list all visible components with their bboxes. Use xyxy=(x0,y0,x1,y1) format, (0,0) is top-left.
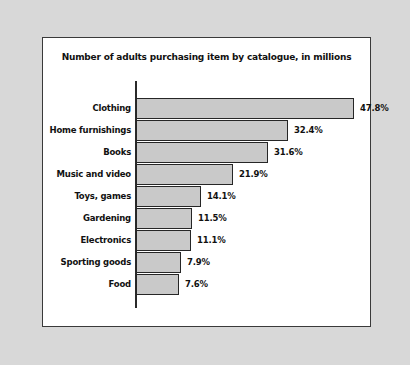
bar-category-label: Clothing xyxy=(43,103,131,113)
bar-category-label: Gardening xyxy=(43,213,131,223)
bar-row: Music and video21.9% xyxy=(43,163,372,185)
bar-category-label: Books xyxy=(43,147,131,157)
bar-value-label: 31.6% xyxy=(274,147,303,157)
bar-category-label: Music and video xyxy=(43,169,131,179)
bar-shape xyxy=(136,164,233,185)
bar-category-label: Sporting goods xyxy=(43,257,131,267)
bar-value-label: 7.9% xyxy=(187,257,210,267)
bar-value-label: 14.1% xyxy=(207,191,236,201)
bar-category-label: Food xyxy=(43,279,131,289)
bar-value-label: 47.8% xyxy=(360,103,389,113)
bar-shape xyxy=(136,186,201,207)
chart-panel: Number of adults purchasing item by cata… xyxy=(42,37,371,327)
bar-shape xyxy=(136,142,268,163)
bar-row: Toys, games14.1% xyxy=(43,185,372,207)
bar-series: Clothing47.8%Home furnishings32.4%Books3… xyxy=(43,97,372,295)
bar-value-label: 11.1% xyxy=(197,235,226,245)
bar-value-label: 7.6% xyxy=(185,279,208,289)
bar-category-label: Toys, games xyxy=(43,191,131,201)
bar-row: Food7.6% xyxy=(43,273,372,295)
bar-row: Sporting goods7.9% xyxy=(43,251,372,273)
bar-row: Gardening11.5% xyxy=(43,207,372,229)
bar-shape xyxy=(136,252,181,273)
bar-row: Clothing47.8% xyxy=(43,97,372,119)
bar-category-label: Electronics xyxy=(43,235,131,245)
bar-value-label: 32.4% xyxy=(294,125,323,135)
bar-value-label: 21.9% xyxy=(239,169,268,179)
bar-shape xyxy=(136,208,192,229)
plot-area: Clothing47.8%Home furnishings32.4%Books3… xyxy=(43,81,372,311)
bar-value-label: 11.5% xyxy=(198,213,227,223)
bar-shape xyxy=(136,98,354,119)
bar-shape xyxy=(136,120,288,141)
figure-frame: Number of adults purchasing item by cata… xyxy=(0,0,410,365)
bar-shape xyxy=(136,230,191,251)
bar-row: Books31.6% xyxy=(43,141,372,163)
bar-row: Home furnishings32.4% xyxy=(43,119,372,141)
bar-shape xyxy=(136,274,179,295)
bar-row: Electronics11.1% xyxy=(43,229,372,251)
chart-title: Number of adults purchasing item by cata… xyxy=(43,52,370,62)
bar-category-label: Home furnishings xyxy=(43,125,131,135)
